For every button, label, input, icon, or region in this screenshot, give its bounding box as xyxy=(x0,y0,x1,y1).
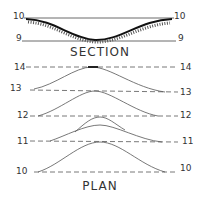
contour-10-curve xyxy=(38,142,165,172)
contour-11-curve xyxy=(50,125,162,142)
section-label-top-right: 10 xyxy=(174,12,185,21)
contour-10-label-left: 10 xyxy=(16,167,27,176)
section-title: SECTION xyxy=(70,45,130,59)
contour-13-curve xyxy=(34,67,165,92)
contour-12-label-left: 12 xyxy=(17,111,28,120)
contour-12-curve xyxy=(38,91,158,116)
contour-11-label-right: 11 xyxy=(182,137,193,146)
contour-14-label-left: 14 xyxy=(14,63,25,72)
section-ground-profile xyxy=(26,19,172,40)
section-label-top-left: 10 xyxy=(13,12,24,21)
contour-11-upper-curve xyxy=(75,117,125,132)
contour-10-label-right: 10 xyxy=(180,164,191,173)
contour-14-label-right: 14 xyxy=(180,63,191,72)
diagram-canvas xyxy=(0,0,204,198)
peak-marker xyxy=(88,66,98,68)
section-drawing xyxy=(22,18,176,42)
section-label-bottom-left: 9 xyxy=(16,34,22,43)
plan-title: PLAN xyxy=(82,179,117,193)
contour-13-label-right: 13 xyxy=(180,88,191,97)
contour-12-label-right: 12 xyxy=(180,111,191,120)
contour-11-label-left: 11 xyxy=(17,137,28,146)
section-label-bottom-right: 9 xyxy=(178,34,184,43)
contour-13-label-left: 13 xyxy=(10,84,21,93)
plan-drawing xyxy=(26,67,178,172)
